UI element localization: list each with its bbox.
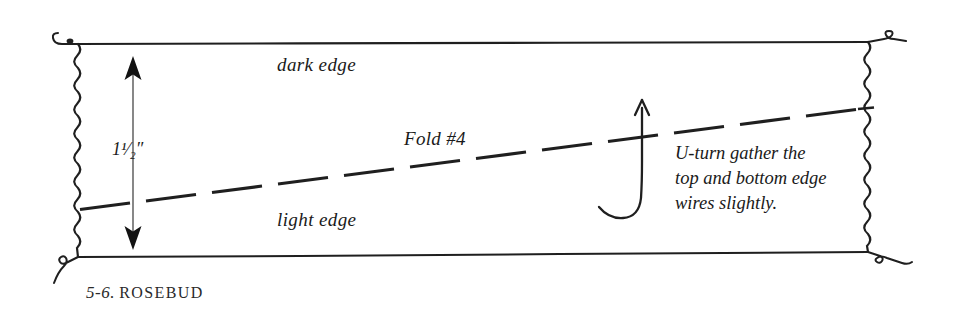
wire-loop-top-right-icon [868,31,906,42]
wire-hook-bottom-right-icon [868,252,912,264]
straight-edge-top-icon [78,42,868,44]
wire-bead-top-left-icon [67,38,74,43]
wire-hook-top-left-icon [53,33,78,44]
note-line-2: top and bottom edge [675,166,875,191]
note-line-1: U-turn gather the [675,141,875,166]
wire-hook-bottom-left-icon [54,256,78,283]
label-dimension-measurement: 1¹⁄₂″ [112,139,143,160]
label-fold-number: Fold #4 [404,128,466,150]
figure-page: dark edge light edge Fold #4 1¹⁄₂″ U-tur… [0,0,960,324]
wavy-wire-left-edge-icon [74,44,80,257]
figure-caption: 5-6. ROSEBUD [86,283,204,303]
u-turn-arrow-icon [599,100,649,218]
caption-number: 5-6. [86,283,115,302]
note-u-turn-instruction: U-turn gather the top and bottom edge wi… [675,141,875,216]
caption-title: ROSEBUD [119,284,203,301]
note-line-3: wires slightly. [675,191,875,216]
label-light-edge: light edge [277,209,356,231]
label-dark-edge: dark edge [277,54,356,76]
straight-edge-bottom-icon [78,252,868,257]
